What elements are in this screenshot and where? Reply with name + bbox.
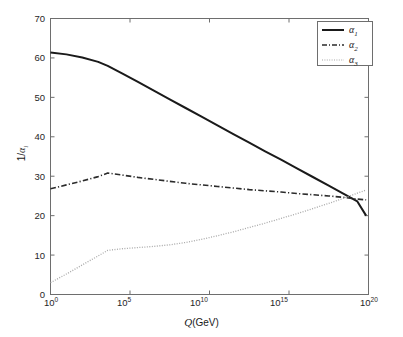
y-tick-label: 60: [14, 53, 45, 63]
y-axis-symbol: α: [16, 148, 27, 153]
x-tick-label: 1010: [178, 298, 220, 308]
legend-label-alpha-3: α3: [349, 54, 358, 65]
legend-sample-alpha-3: [321, 54, 345, 66]
x-tick-label: 1020: [348, 298, 390, 308]
legend-label-alpha-2: α2: [349, 39, 358, 50]
legend-sample-alpha-1: [321, 24, 345, 36]
y-tick-label: 10: [14, 251, 45, 261]
series-line-α₂: [51, 173, 367, 200]
x-tick-label: 1015: [258, 298, 300, 308]
x-axis-symbol: Q: [184, 316, 192, 328]
y-axis-title: 1/αi: [16, 124, 27, 184]
legend-entry-alpha-3: α3: [318, 52, 372, 67]
legend-sample-alpha-2: [321, 39, 345, 51]
figure-container: 0 10 20 30 40 50 60 70 100 105 1010 1015…: [0, 0, 403, 337]
legend-box: α1 α2 α3: [317, 21, 373, 66]
y-tick-label: 50: [14, 93, 45, 103]
x-axis-units: (GeV): [192, 317, 219, 328]
series-line-α₃: [51, 190, 367, 283]
y-tick-label: 70: [14, 14, 45, 24]
legend-entry-alpha-2: α2: [318, 37, 372, 52]
series-line-α₁: [51, 52, 367, 215]
x-axis-title: Q(GeV): [0, 316, 403, 328]
legend-entry-alpha-1: α1: [318, 22, 372, 37]
y-tick-label: 20: [14, 211, 45, 221]
x-tick-label: 105: [107, 298, 141, 308]
x-tick-label: 100: [34, 298, 68, 308]
legend-label-alpha-1: α1: [349, 24, 358, 35]
y-axis-numerator: 1/: [16, 153, 27, 161]
y-axis-subscript: i: [22, 146, 30, 148]
series-layer: [51, 52, 367, 282]
